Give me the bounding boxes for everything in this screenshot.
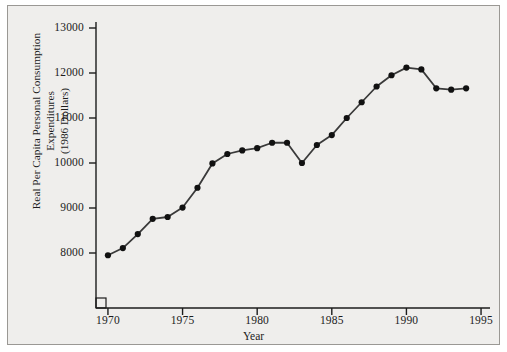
- x-tick-label: 1970: [85, 314, 131, 326]
- data-point-marker: [463, 85, 469, 91]
- origin-notch: [96, 298, 106, 308]
- x-axis-title: Year: [0, 330, 507, 342]
- data-point-marker: [194, 185, 200, 191]
- data-point-marker: [269, 140, 275, 146]
- axes-group: [96, 22, 490, 308]
- y-axis-title-line1: Real Per Capita Personal Consumption Exp…: [29, 11, 57, 231]
- data-point-marker: [224, 151, 230, 157]
- data-point-marker: [448, 87, 454, 93]
- data-point-marker: [403, 65, 409, 71]
- data-point-marker: [418, 66, 424, 72]
- data-point-marker: [120, 245, 126, 251]
- x-tick-label: 1985: [309, 314, 355, 326]
- data-point-marker: [150, 216, 156, 222]
- data-point-marker: [373, 83, 379, 89]
- chart-canvas: [0, 0, 507, 352]
- data-markers: [105, 65, 469, 259]
- y-tick-marks: [89, 28, 96, 253]
- data-point-marker: [179, 204, 185, 210]
- data-point-marker: [239, 147, 245, 153]
- x-tick-label: 1990: [383, 314, 429, 326]
- data-point-marker: [299, 160, 305, 166]
- data-point-marker: [284, 140, 290, 146]
- data-point-marker: [344, 115, 350, 121]
- x-tick-label: 1980: [234, 314, 280, 326]
- data-point-marker: [388, 72, 394, 78]
- data-point-marker: [433, 85, 439, 91]
- y-axis-title-line2: (1986 Dollars): [57, 11, 71, 231]
- data-point-marker: [314, 142, 320, 148]
- data-point-marker: [254, 145, 260, 151]
- data-point-marker: [209, 160, 215, 166]
- y-axis-title: Real Per Capita Personal Consumption Exp…: [29, 11, 71, 231]
- data-line: [108, 68, 466, 256]
- data-point-marker: [359, 99, 365, 105]
- data-point-marker: [105, 252, 111, 258]
- chart-figure: 8000900010000110001200013000 19701975198…: [0, 0, 507, 352]
- data-point-marker: [135, 231, 141, 237]
- data-point-marker: [165, 214, 171, 220]
- x-tick-label: 1975: [160, 314, 206, 326]
- data-point-marker: [329, 132, 335, 138]
- x-tick-label: 1995: [458, 314, 504, 326]
- y-tick-label: 8000: [30, 246, 84, 258]
